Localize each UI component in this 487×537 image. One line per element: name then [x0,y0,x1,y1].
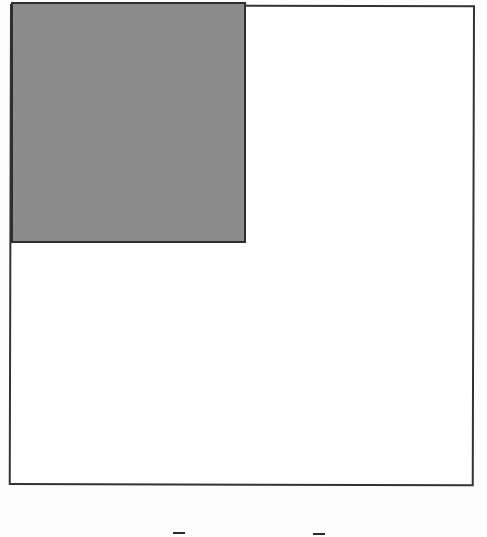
bottom-mark-1 [173,532,185,534]
bottom-mark-2 [313,533,325,535]
scanned-page [0,0,487,537]
shaded-quadrant [11,2,246,243]
